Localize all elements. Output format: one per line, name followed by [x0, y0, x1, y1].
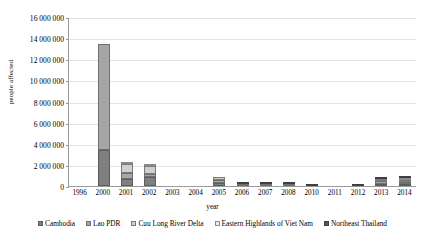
bar-segment[interactable]: [144, 177, 156, 187]
x-tick-label: 2004: [184, 189, 207, 197]
bar-slot: [115, 18, 138, 186]
bar-slot: [324, 18, 347, 186]
x-tick-label: 1996: [68, 189, 91, 197]
bar-segment[interactable]: [352, 184, 364, 186]
legend-label: Lao PDR: [93, 219, 120, 228]
y-tick-label: 16 000 000: [0, 14, 64, 23]
bar-slot: [162, 18, 185, 186]
bar-segment[interactable]: [121, 164, 133, 174]
stacked-bar[interactable]: [260, 182, 272, 186]
stacked-bar[interactable]: [283, 182, 295, 186]
bar-slot: [69, 18, 92, 186]
x-tick-label: 2012: [346, 189, 369, 197]
bar-slot: [138, 18, 161, 186]
chart-container: people affected 02 000 0004 000 0006 000…: [0, 0, 425, 237]
x-tick-label: 2002: [138, 189, 161, 197]
y-tick-mark: [66, 187, 69, 188]
bar-slot: [277, 18, 300, 186]
legend-label: Cambodia: [45, 219, 75, 228]
y-tick-label: 2 000 000: [0, 161, 64, 170]
legend-label: Cuu Long River Delta: [138, 219, 203, 228]
legend-label: Northeast Thailand: [331, 219, 387, 228]
y-tick-label: 14 000 000: [0, 35, 64, 44]
stacked-bar[interactable]: [237, 182, 249, 186]
bar-slot: [347, 18, 370, 186]
plot-area: [68, 18, 416, 187]
legend-swatch-icon: [324, 221, 329, 226]
y-tick-label: 12 000 000: [0, 56, 64, 65]
legend-swatch-icon: [215, 221, 220, 226]
bar-segment[interactable]: [260, 184, 272, 186]
bar-segment[interactable]: [375, 184, 387, 186]
stacked-bar[interactable]: [213, 177, 225, 186]
bar-segment[interactable]: [98, 150, 110, 186]
bar-segment[interactable]: [283, 184, 295, 186]
bar-slot: [185, 18, 208, 186]
x-tick-label: 2013: [370, 189, 393, 197]
bar-slot: [370, 18, 393, 186]
y-tick-label: 10 000 000: [0, 77, 64, 86]
stacked-bar[interactable]: [144, 164, 156, 186]
y-tick-label: 0: [0, 183, 64, 192]
stacked-bar[interactable]: [121, 162, 133, 186]
bar-slot: [92, 18, 115, 186]
legend-swatch-icon: [131, 221, 136, 226]
x-axis-tick-labels: 1996200020012002200320042005200620072008…: [68, 189, 416, 197]
bar-slot: [231, 18, 254, 186]
x-tick-label: 2011: [323, 189, 346, 197]
x-axis-title: year: [0, 203, 425, 211]
bar-segment[interactable]: [399, 184, 411, 186]
x-tick-label: 2007: [254, 189, 277, 197]
legend-item[interactable]: Eastern Highlands of Viet Nam: [215, 219, 313, 228]
legend-item[interactable]: Cuu Long River Delta: [131, 219, 203, 228]
x-tick-label: 2014: [393, 189, 416, 197]
x-tick-label: 2006: [230, 189, 253, 197]
bar-slot: [393, 18, 416, 186]
bar-segment[interactable]: [121, 179, 133, 186]
legend-swatch-icon: [86, 221, 91, 226]
bar-segment[interactable]: [98, 44, 110, 150]
x-tick-label: 2005: [207, 189, 230, 197]
y-tick-label: 4 000 000: [0, 140, 64, 149]
bar-slot: [254, 18, 277, 186]
bar-slot: [300, 18, 323, 186]
bar-segment[interactable]: [213, 183, 225, 186]
bar-segment[interactable]: [237, 184, 249, 186]
bar-segment[interactable]: [306, 184, 318, 186]
x-tick-label: 2001: [114, 189, 137, 197]
x-tick-label: 2000: [91, 189, 114, 197]
stacked-bar[interactable]: [98, 44, 110, 186]
stacked-bar[interactable]: [375, 177, 387, 186]
y-tick-label: 8 000 000: [0, 98, 64, 107]
legend-item[interactable]: Northeast Thailand: [324, 219, 387, 228]
bar-segment[interactable]: [144, 166, 156, 174]
legend: CambodiaLao PDRCuu Long River DeltaEaste…: [0, 219, 425, 228]
stacked-bar[interactable]: [399, 176, 411, 186]
legend-item[interactable]: Cambodia: [38, 219, 75, 228]
x-tick-label: 2003: [161, 189, 184, 197]
x-tick-label: 2010: [300, 189, 323, 197]
bar-slot: [208, 18, 231, 186]
legend-item[interactable]: Lao PDR: [86, 219, 120, 228]
y-tick-label: 6 000 000: [0, 119, 64, 128]
legend-label: Eastern Highlands of Viet Nam: [222, 219, 313, 228]
stacked-bar[interactable]: [352, 184, 364, 186]
legend-swatch-icon: [38, 221, 43, 226]
bars-layer: [69, 18, 416, 186]
x-tick-label: 2008: [277, 189, 300, 197]
stacked-bar[interactable]: [306, 184, 318, 186]
